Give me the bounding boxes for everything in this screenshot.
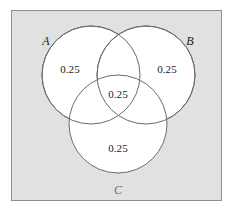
venn-circles-group <box>0 0 237 212</box>
set-label-b: B <box>186 34 193 49</box>
venn-diagram-figure: A B C 0.25 0.25 0.25 0.25 <box>0 0 237 212</box>
region-value-only-c: 0.25 <box>108 142 128 154</box>
region-value-a-b-c: 0.25 <box>108 88 128 100</box>
set-label-c: C <box>114 183 122 198</box>
set-label-a: A <box>42 34 49 49</box>
region-value-only-b: 0.25 <box>157 63 177 75</box>
region-value-only-a: 0.25 <box>60 63 80 75</box>
